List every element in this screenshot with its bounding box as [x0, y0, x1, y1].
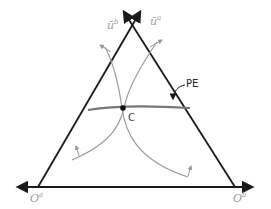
pe-pointer	[173, 85, 185, 99]
contract-point-c	[120, 105, 126, 111]
diagram-canvas	[0, 0, 271, 209]
label-utility-b: ūb	[107, 19, 119, 31]
indifference-curve-a	[72, 42, 157, 160]
arrow-top-left	[100, 45, 111, 52]
label-utility-a: ūa	[150, 15, 161, 27]
arrow-bottom-left	[76, 146, 79, 156]
label-origin-b: Ob	[233, 192, 247, 204]
left-axis	[38, 12, 140, 187]
right-axis	[124, 12, 235, 187]
label-c: C	[128, 113, 135, 123]
arrow-bottom-right	[188, 166, 191, 176]
label-pe: PE	[186, 79, 198, 89]
indifference-curve-b	[105, 47, 188, 177]
pareto-efficient-curve	[88, 106, 190, 110]
arrow-top-right	[150, 40, 162, 47]
label-origin-a: Oa	[30, 192, 43, 204]
